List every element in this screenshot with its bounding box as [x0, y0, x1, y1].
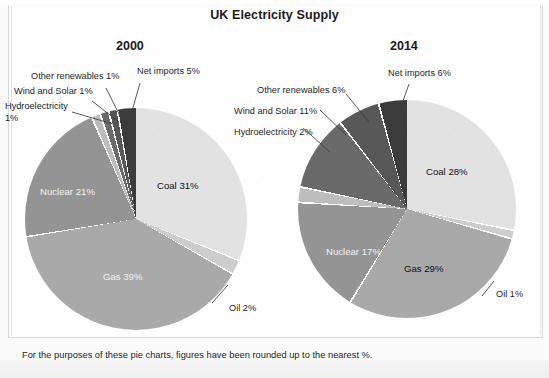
right-pie-slices — [298, 100, 516, 318]
right-slice-label-coal: Coal 28% — [426, 166, 468, 177]
left-slice-label-gas: Gas 39% — [103, 271, 142, 282]
top-crop-mask — [0, 0, 549, 4]
scanned-page: Write at least 150 words. UK Electricity… — [0, 0, 549, 378]
left-label-oil: Oil 2% — [229, 303, 256, 315]
right-slice-label-gas: Gas 29% — [404, 263, 443, 274]
right-label-net-imports: Net imports 6% — [388, 68, 451, 80]
scan-bottom-band — [0, 360, 549, 378]
left-label-wind-solar: Wind and Solar 1% — [14, 86, 93, 98]
right-slice-label-nuclear: Nuclear 17% — [326, 246, 381, 257]
left-label-other-renewables: Other renewables 1% — [31, 71, 119, 83]
left-slice-label-nuclear: Nuclear 21% — [40, 186, 95, 197]
left-pie-slices — [25, 108, 247, 330]
right-label-other-renewables: Other renewables 6% — [257, 85, 345, 97]
footer-rounding-note: For the purposes of these pie charts, fi… — [22, 350, 372, 360]
left-pie-chart: Coal 31% Gas 39% Nuclear 21% — [25, 108, 247, 330]
right-label-oil: Oil 1% — [496, 289, 523, 301]
left-label-hydroelectricity: Hydroelectricity 1% — [5, 101, 77, 124]
left-slice-label-coal: Coal 31% — [157, 180, 199, 191]
figure-title: UK Electricity Supply — [0, 8, 549, 22]
right-label-hydroelectricity: Hydroelectricity 2% — [234, 127, 314, 139]
left-label-net-imports: Net imports 5% — [137, 66, 200, 78]
right-chart-year-heading: 2014 — [390, 39, 418, 53]
right-label-wind-solar: Wind and Solar 11% — [234, 106, 317, 118]
left-chart-year-heading: 2000 — [116, 39, 144, 53]
right-pie-chart: Coal 28% Gas 29% Nuclear 17% — [298, 100, 516, 318]
